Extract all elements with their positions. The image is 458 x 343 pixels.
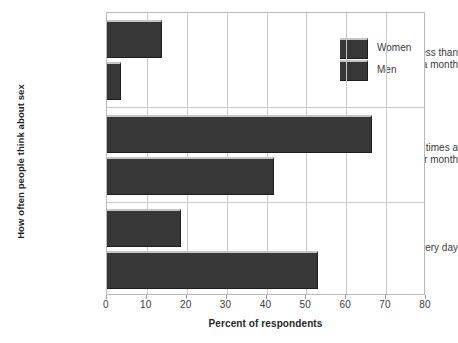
- x-axis-tick-label: 50: [300, 299, 312, 310]
- x-axis-tick-label: 10: [140, 299, 152, 310]
- gridline-horizontal: [107, 202, 424, 203]
- y-axis-title: How often people think about sex: [15, 82, 26, 242]
- x-axis-tick-label: 60: [339, 299, 351, 310]
- x-axis-tick-mark: [425, 295, 426, 299]
- bar-women-2: [107, 209, 181, 247]
- bar-women-1: [107, 115, 372, 153]
- x-axis-tick-mark: [186, 295, 187, 299]
- x-axis-tick-mark: [345, 295, 346, 299]
- bar-chart: How often people think about sex Less th…: [0, 0, 458, 343]
- x-axis-title: Percent of respondents: [106, 318, 425, 329]
- gridline-vertical: [386, 13, 387, 294]
- x-axis-tick-label: 30: [220, 299, 232, 310]
- x-axis-tick-mark: [146, 295, 147, 299]
- legend-swatch-women: [340, 38, 368, 59]
- gridline-horizontal: [107, 107, 424, 108]
- bar-women-0: [107, 20, 162, 58]
- bar-men-1: [107, 157, 274, 195]
- x-axis-tick-label: 20: [180, 299, 192, 310]
- x-axis-tick-mark: [266, 295, 267, 299]
- bar-men-2: [107, 251, 318, 289]
- y-axis-title-container: How often people think about sex: [0, 0, 20, 343]
- legend-label-women: Women: [377, 42, 411, 53]
- legend-item-men: Men: [340, 60, 430, 82]
- x-axis-tick-label: 0: [103, 299, 109, 310]
- x-axis-tick-mark: [226, 295, 227, 299]
- x-axis-tick-mark: [385, 295, 386, 299]
- legend-swatch-men: [340, 60, 368, 81]
- x-axis-tick-mark: [305, 295, 306, 299]
- plot-area: Women Men: [106, 12, 425, 295]
- x-axis-tick-mark: [106, 295, 107, 299]
- x-axis-tick-label: 70: [379, 299, 391, 310]
- x-axis-tick-label: 80: [419, 299, 431, 310]
- gridline-vertical: [346, 13, 347, 294]
- bar-men-0: [107, 62, 121, 100]
- x-axis-tick-label: 40: [260, 299, 272, 310]
- legend-item-women: Women: [340, 38, 430, 60]
- chart-legend: Women Men: [340, 38, 430, 82]
